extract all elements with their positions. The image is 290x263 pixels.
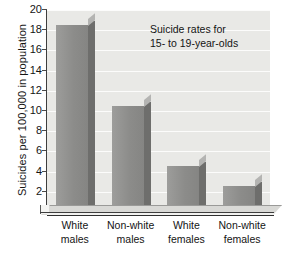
- chart-title-line: 15- to 19-year-olds: [150, 36, 238, 50]
- bar-side-face: [88, 21, 95, 208]
- bar-side-face: [199, 162, 206, 208]
- x-axis-category-labels: WhitemalesNon-whitemalesWhitefemalesNon-…: [47, 218, 274, 260]
- y-axis-tick-labels: 2468101214161820: [20, 10, 42, 212]
- bar-front-face: [56, 25, 88, 212]
- y-axis-tick-label: 20: [20, 4, 42, 15]
- y-axis-tick-label: 18: [20, 24, 42, 35]
- y-axis-tick-label: 6: [20, 145, 42, 156]
- y-axis-line: [46, 10, 47, 213]
- x-axis-category-label: Non-whitefemales: [208, 218, 276, 246]
- y-axis-tick-label: 16: [20, 44, 42, 55]
- gridline: [47, 10, 270, 11]
- y-axis-tick-label: 10: [20, 105, 42, 116]
- chart-title-line: Suicide rates for: [150, 22, 238, 36]
- x-axis-category-label-line: Non-white: [208, 218, 276, 232]
- y-axis-tick-label: 14: [20, 65, 42, 76]
- y-axis-tick-label: 12: [20, 85, 42, 96]
- chart-floor-front-edge: [47, 213, 274, 216]
- chart-title: Suicide rates for15- to 19-year-olds: [150, 22, 238, 50]
- bar-side-face: [144, 102, 151, 208]
- y-axis-tick-label: 2: [20, 186, 42, 197]
- y-axis-tick-label: 8: [20, 125, 42, 136]
- bar: [56, 25, 88, 212]
- bar-front-face: [112, 106, 144, 212]
- bar-chart-figure: Suicides per 100,000 in population 24681…: [0, 0, 290, 263]
- x-axis-category-label-line: females: [208, 232, 276, 246]
- bar: [112, 106, 144, 212]
- y-axis-tick-label: 4: [20, 166, 42, 177]
